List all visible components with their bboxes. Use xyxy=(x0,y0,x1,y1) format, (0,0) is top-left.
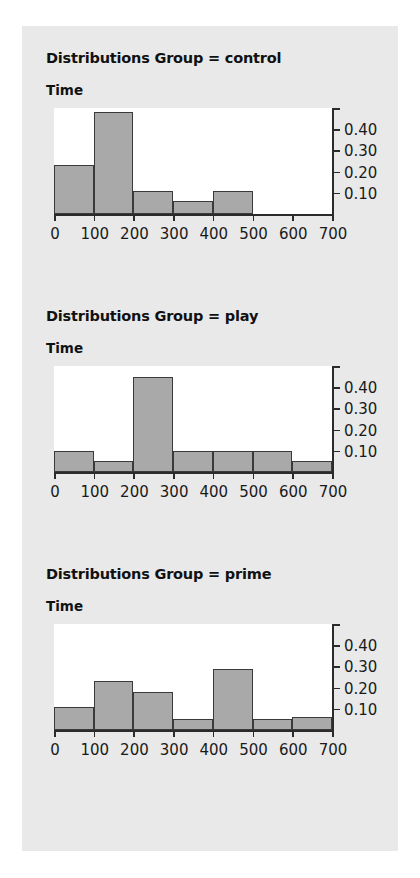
x-axis-tick xyxy=(94,214,96,221)
x-axis-tick xyxy=(94,472,96,479)
y-axis-tick-label: 0.30 xyxy=(344,658,377,676)
x-axis-tick-label: 600 xyxy=(279,225,308,243)
y-axis-tick xyxy=(333,129,340,131)
chart-panel-control: Distributions Group = controlTime0100200… xyxy=(22,26,398,284)
histogram-bar xyxy=(94,461,134,472)
x-axis-tick-label: 300 xyxy=(160,741,189,759)
bar-series xyxy=(54,108,332,214)
x-axis-tick-label: 500 xyxy=(239,741,268,759)
x-axis-tick xyxy=(332,730,334,737)
x-axis-tick-label: 600 xyxy=(279,741,308,759)
y-axis-tick-label: 0.40 xyxy=(344,637,377,655)
x-axis-tick-label: 400 xyxy=(200,741,229,759)
x-axis-tick xyxy=(213,472,215,479)
y-axis-tick-label: 0.30 xyxy=(344,400,377,418)
chart-panel-play: Distributions Group = playTime0100200300… xyxy=(22,284,398,542)
x-axis-tick xyxy=(173,214,175,221)
y-axis-tick xyxy=(333,387,340,389)
x-axis-tick xyxy=(292,472,294,479)
bar-series xyxy=(54,366,332,472)
x-axis-tick xyxy=(133,214,135,221)
x-axis-tick xyxy=(173,472,175,479)
y-axis-line xyxy=(332,108,334,216)
histogram-bar xyxy=(94,681,134,730)
histogram-bar xyxy=(133,377,173,472)
y-axis-tick xyxy=(333,108,340,110)
x-axis-tick-label: 400 xyxy=(200,225,229,243)
chart-title: Distributions Group = prime xyxy=(46,566,271,582)
histogram-bar xyxy=(292,717,332,730)
histogram-bar xyxy=(54,707,94,730)
y-axis-tick-label: 0.40 xyxy=(344,379,377,397)
x-axis-tick xyxy=(292,730,294,737)
chart-title: Distributions Group = control xyxy=(46,50,281,66)
x-axis-tick-label: 0 xyxy=(50,741,60,759)
plot-region: 01002003004005006007000.100.200.300.40 xyxy=(54,366,332,472)
x-axis-tick-label: 700 xyxy=(319,483,348,501)
y-axis-tick-label: 0.20 xyxy=(344,422,377,440)
plot-region: 01002003004005006007000.100.200.300.40 xyxy=(54,624,332,730)
x-axis-tick xyxy=(94,730,96,737)
y-axis-tick xyxy=(333,624,340,626)
y-axis-tick-label: 0.20 xyxy=(344,680,377,698)
x-axis-tick-label: 300 xyxy=(160,483,189,501)
y-axis-tick xyxy=(333,172,340,174)
x-axis-tick xyxy=(332,214,334,221)
x-axis-tick xyxy=(133,472,135,479)
histogram-bar xyxy=(292,461,332,472)
chart-y-axis-title: Time xyxy=(46,340,83,356)
chart-panel-prime: Distributions Group = primeTime010020030… xyxy=(22,542,398,800)
x-axis-tick xyxy=(54,214,56,221)
x-axis-tick-label: 100 xyxy=(80,741,109,759)
y-axis-tick-label: 0.30 xyxy=(344,142,377,160)
x-axis-tick xyxy=(292,214,294,221)
y-axis-tick xyxy=(333,430,340,432)
x-axis-tick xyxy=(253,472,255,479)
plot-region: 01002003004005006007000.100.200.300.40 xyxy=(54,108,332,214)
x-axis-tick xyxy=(213,214,215,221)
x-axis-tick-label: 200 xyxy=(120,741,149,759)
histogram-bar xyxy=(54,451,94,472)
y-axis-tick xyxy=(333,366,340,368)
y-axis-tick xyxy=(333,688,340,690)
x-axis-tick xyxy=(54,730,56,737)
histogram-bar xyxy=(173,451,213,472)
y-axis-line xyxy=(332,366,334,474)
x-axis-tick-label: 200 xyxy=(120,483,149,501)
x-axis-tick-label: 0 xyxy=(50,225,60,243)
chart-title: Distributions Group = play xyxy=(46,308,258,324)
histogram-bar xyxy=(253,719,293,730)
x-axis-tick xyxy=(332,472,334,479)
x-axis-tick-label: 500 xyxy=(239,483,268,501)
bar-series xyxy=(54,624,332,730)
y-axis-tick xyxy=(333,666,340,668)
histogram-bar xyxy=(54,165,94,214)
y-axis-tick xyxy=(333,451,340,453)
x-axis-tick xyxy=(253,214,255,221)
y-axis-tick xyxy=(333,408,340,410)
y-axis-tick-label: 0.20 xyxy=(344,164,377,182)
chart-stack: Distributions Group = controlTime0100200… xyxy=(22,26,398,851)
x-axis-tick-label: 200 xyxy=(120,225,149,243)
x-axis-tick-label: 600 xyxy=(279,483,308,501)
x-axis-tick-label: 500 xyxy=(239,225,268,243)
x-axis-tick-label: 300 xyxy=(160,225,189,243)
x-axis-tick xyxy=(213,730,215,737)
x-axis-tick xyxy=(173,730,175,737)
x-axis-tick-label: 0 xyxy=(50,483,60,501)
y-axis-tick-label: 0.10 xyxy=(344,701,377,719)
y-axis-tick-label: 0.10 xyxy=(344,185,377,203)
x-axis-tick xyxy=(253,730,255,737)
histogram-bar xyxy=(94,112,134,214)
histogram-bar xyxy=(173,201,213,214)
histogram-bar xyxy=(253,451,293,472)
histogram-bar xyxy=(173,719,213,730)
y-axis-line xyxy=(332,624,334,732)
histogram-bar xyxy=(213,191,253,214)
y-axis-tick xyxy=(333,645,340,647)
x-axis-tick xyxy=(54,472,56,479)
x-axis-tick-label: 100 xyxy=(80,483,109,501)
x-axis-tick-label: 700 xyxy=(319,741,348,759)
histogram-page: Distributions Group = controlTime0100200… xyxy=(0,0,420,878)
x-axis-tick-label: 700 xyxy=(319,225,348,243)
